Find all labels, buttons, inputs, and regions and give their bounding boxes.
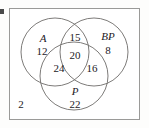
- count-bp-p: 16: [87, 63, 98, 74]
- count-a-bp: 15: [70, 32, 81, 43]
- count-outside: 2: [18, 99, 24, 110]
- count-a-bp-p: 20: [70, 50, 81, 61]
- venn-diagram-figure: A 12 BP 8 P 22 15 24 16 20 2: [0, 0, 149, 128]
- count-p-only: 22: [70, 99, 81, 110]
- count-bp-only: 8: [105, 45, 111, 56]
- set-label-a: A: [40, 33, 47, 44]
- count-a-p: 24: [54, 63, 65, 74]
- set-label-bp: BP: [101, 31, 114, 42]
- count-a-only: 12: [37, 46, 48, 57]
- set-label-p: P: [72, 86, 79, 97]
